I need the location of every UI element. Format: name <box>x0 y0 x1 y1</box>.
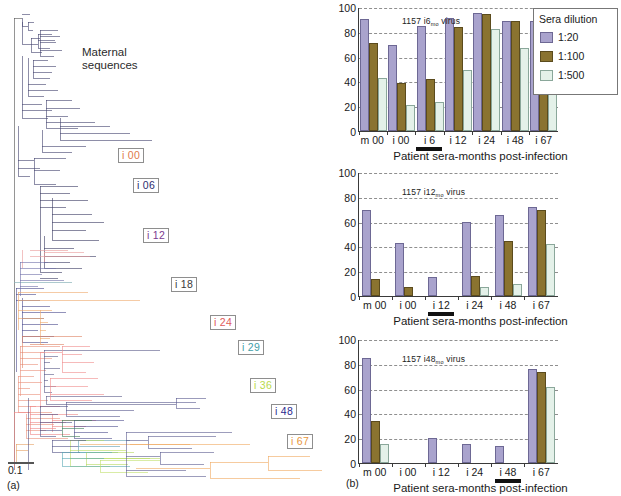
bar-i-00-1-100 <box>404 287 413 296</box>
bar-i-48-1-20 <box>495 446 504 463</box>
bar-group-m-00 <box>359 8 387 131</box>
clade-label-i-12: i 12 <box>143 228 169 243</box>
y-tick-label: 20 <box>344 434 356 444</box>
panel-b-label: (b) <box>346 477 359 489</box>
bar-group-m-00 <box>359 340 392 463</box>
scale-bar-value: 0.1 <box>8 464 34 476</box>
bar-i-24-1-500 <box>480 287 489 296</box>
clade-label-i-67: i 67 <box>287 434 313 449</box>
virus-strain-subscript: mo <box>436 359 444 365</box>
bar-i-6-1-100 <box>426 79 435 131</box>
x-tick-label-i-12: i 12 <box>444 134 473 146</box>
legend-item-1-20: 1:20 <box>540 31 612 43</box>
x-tick-label-m-00: m 00 <box>358 299 391 311</box>
y-tick-label: 100 <box>338 335 356 345</box>
x-tick-label-i-6: i 6 <box>415 134 444 146</box>
y-tick-label: 80 <box>344 193 356 203</box>
virus-strain-subscript: mo <box>431 21 439 27</box>
legend-item-1-500: 1:500 <box>540 69 612 81</box>
legend-label-1-100: 1:100 <box>558 50 584 62</box>
bar-i-48-1-100 <box>504 241 513 296</box>
y-tick-label: 80 <box>344 360 356 370</box>
virus-strain-suffix: virus <box>444 354 466 364</box>
bar-i-67-1-500 <box>546 244 555 296</box>
y-axis: 020406080100 <box>340 8 356 132</box>
x-tick-label-i-12: i 12 <box>425 299 458 311</box>
bar-m-00-1-500 <box>378 78 387 131</box>
bar-m-00-1-100 <box>371 421 380 463</box>
clade-label-i-48: i 48 <box>271 404 297 419</box>
bar-i-00-1-20 <box>395 243 404 296</box>
bar-i-6-1-20 <box>417 26 426 131</box>
x-axis-caption: Patient sera-months post-infection <box>340 150 621 162</box>
x-tick-label-i-48: i 48 <box>491 299 524 311</box>
plot-area <box>358 8 558 132</box>
bar-m-00-1-100 <box>369 43 378 131</box>
x-tick-label-i-12: i 12 <box>425 466 458 478</box>
y-tick-label: 40 <box>344 77 356 87</box>
x-axis-caption: Patient sera-months post-infection <box>340 482 621 494</box>
legend-label-1-20: 1:20 <box>558 31 578 43</box>
x-axis-tick-labels: m 00i 00i 12i 24i 48i 67 <box>358 466 558 478</box>
bar-group-i-48 <box>501 8 529 131</box>
x-tick-label-i-00: i 00 <box>391 466 424 478</box>
bar-i-48-1-500 <box>513 284 522 296</box>
bar-group-i-24 <box>473 8 501 131</box>
bar-m-00-1-20 <box>362 210 371 296</box>
bar-i-12-1-100 <box>454 27 463 131</box>
clade-label-i-29: i 29 <box>238 340 264 355</box>
x-axis-tick-labels: m 00i 00i 12i 24i 48i 67 <box>358 299 558 311</box>
bar-i-48-1-20 <box>502 21 511 131</box>
bar-m-00-1-20 <box>362 358 371 463</box>
bar-i-48-1-500 <box>520 48 529 131</box>
bar-i-12-1-500 <box>463 70 472 131</box>
virus-strain-suffix: virus <box>439 16 461 26</box>
bar-i-67-1-100 <box>537 210 546 296</box>
bar-group-i-48 <box>492 173 525 296</box>
bar-group-i-00 <box>387 8 415 131</box>
bar-i-00-1-100 <box>397 83 406 131</box>
y-tick-label: 20 <box>344 267 356 277</box>
x-tick-label-i-24: i 24 <box>472 134 501 146</box>
y-tick-label: 40 <box>344 242 356 252</box>
virus-strain-subscript: mo <box>436 192 444 198</box>
bar-i-67-1-500 <box>546 387 555 463</box>
x-tick-label-m-00: m 00 <box>358 134 387 146</box>
y-axis: 020406080100 <box>340 340 356 464</box>
panel-a-label: (a) <box>7 479 20 491</box>
bar-i-12-1-20 <box>428 277 437 296</box>
bar-m-00-1-100 <box>371 279 380 296</box>
bar-group-i-48 <box>492 340 525 463</box>
panel-b-bar-charts: 0204060801001157 i6mo virusm 00i 00i 6i … <box>340 0 621 496</box>
clade-label-i-00: i 00 <box>118 148 144 163</box>
bar-i-67-1-20 <box>528 369 537 463</box>
x-tick-label-i-24: i 24 <box>458 466 491 478</box>
bar-i-24-1-500 <box>491 29 500 131</box>
legend-sera-dilution: Sera dilution 1:20 1:100 1:500 <box>533 8 618 95</box>
maternal-sequences-annotation: Maternal sequences <box>82 46 138 72</box>
y-tick-label: 60 <box>344 53 356 63</box>
x-tick-label-i-67: i 67 <box>529 134 558 146</box>
y-tick-label: 40 <box>344 409 356 419</box>
y-tick-label: 100 <box>338 168 356 178</box>
y-tick-label: 20 <box>344 102 356 112</box>
legend-swatch-1-100 <box>540 51 553 62</box>
bar-i-6-1-500 <box>435 102 444 131</box>
chart-i12mo: 0204060801001157 i12mo virusm 00i 00i 12… <box>340 165 621 325</box>
bar-i-48-1-20 <box>495 215 504 296</box>
virus-strain-title: 1157 i12mo virus <box>402 187 465 197</box>
bar-i-48-1-100 <box>511 21 520 131</box>
y-tick-label: 0 <box>350 292 356 302</box>
virus-strain-title: 1157 i6mo virus <box>402 16 460 26</box>
bar-i-24-1-100 <box>482 14 491 131</box>
clade-label-i-18: i 18 <box>171 277 197 292</box>
scale-bar: 0.1 <box>8 462 34 476</box>
bar-i-24-1-100 <box>471 276 480 296</box>
legend-title: Sera dilution <box>539 13 612 25</box>
y-tick-label: 60 <box>344 218 356 228</box>
x-tick-label-m-00: m 00 <box>358 466 391 478</box>
virus-strain-title: 1157 i48mo virus <box>402 354 465 364</box>
y-tick-label: 100 <box>338 3 356 13</box>
bar-group-m-00 <box>359 173 392 296</box>
x-tick-label-i-48: i 48 <box>501 134 530 146</box>
